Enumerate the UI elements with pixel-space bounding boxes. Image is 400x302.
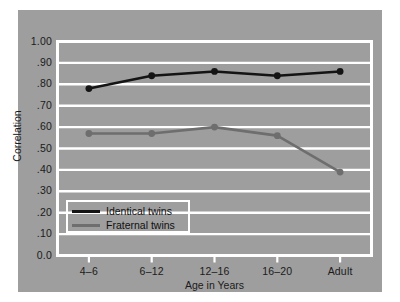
plot-area bbox=[0, 0, 400, 302]
legend-swatch-icon-fraternal bbox=[72, 224, 100, 227]
y-axis-tick-label: .90 bbox=[18, 56, 52, 68]
data-point bbox=[274, 72, 281, 79]
data-point bbox=[86, 85, 93, 92]
y-axis-tick-label: .20 bbox=[18, 206, 52, 218]
y-axis-tick-label: 0.0 bbox=[18, 249, 52, 261]
y-axis-tick-label: .50 bbox=[18, 142, 52, 154]
y-axis-tick-label: .80 bbox=[18, 77, 52, 89]
legend-item-fraternal-twins: Fraternal twins bbox=[68, 218, 188, 232]
y-axis-tick-label: .30 bbox=[18, 184, 52, 196]
x-axis-tick-label: Adult bbox=[310, 265, 370, 277]
x-axis-title: Age in Years bbox=[57, 279, 372, 291]
y-axis-tick-label: .70 bbox=[18, 99, 52, 111]
data-point bbox=[211, 124, 218, 131]
data-point bbox=[274, 132, 281, 139]
legend-label-identical: Identical twins bbox=[106, 205, 172, 217]
y-axis-tick-label: 1.00 bbox=[18, 35, 52, 47]
data-point bbox=[337, 169, 344, 176]
chart-legend: Identical twins Fraternal twins bbox=[66, 200, 190, 233]
y-axis-title: Correlation bbox=[11, 101, 23, 171]
legend-label-fraternal: Fraternal twins bbox=[106, 219, 175, 231]
legend-swatch-icon-identical bbox=[72, 210, 100, 213]
data-point bbox=[337, 68, 344, 75]
y-axis-tick-label: .60 bbox=[18, 120, 52, 132]
chart-figure: 1.00.90.80.70.60.50.40.30.20.100.0 4–66–… bbox=[0, 0, 400, 302]
x-axis-tick-label: 6–12 bbox=[122, 265, 182, 277]
legend-item-identical-twins: Identical twins bbox=[68, 204, 188, 218]
x-axis-tick-label: 4–6 bbox=[59, 265, 119, 277]
data-point bbox=[211, 68, 218, 75]
y-axis-tick-label: .10 bbox=[18, 227, 52, 239]
x-axis-ticks bbox=[89, 257, 340, 263]
x-axis-tick-label: 12–16 bbox=[185, 265, 245, 277]
x-axis-tick-label: 16–20 bbox=[247, 265, 307, 277]
data-point bbox=[148, 72, 155, 79]
y-axis-tick-label: .40 bbox=[18, 163, 52, 175]
data-point bbox=[148, 130, 155, 137]
data-point bbox=[86, 130, 93, 137]
